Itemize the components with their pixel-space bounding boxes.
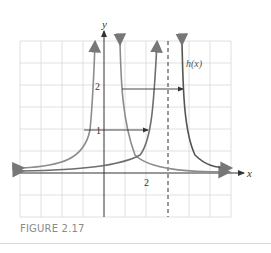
curve-left-branch [22, 43, 95, 168]
y-tick-2: 2 [95, 81, 100, 92]
figure-caption: FIGURE 2.17 [20, 223, 85, 234]
divider [0, 243, 271, 244]
y-tick-1: 1 [96, 125, 101, 136]
y-axis-label: y [101, 18, 107, 30]
function-label: h(x) [186, 58, 203, 70]
x-tick-2: 2 [144, 177, 149, 188]
x-axis-label: x [246, 167, 252, 179]
curve-right-branch [120, 43, 228, 172]
figure-graph: y x 2 1 2 h(x) [0, 0, 271, 253]
